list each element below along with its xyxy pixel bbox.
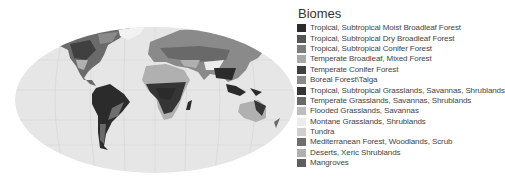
legend-label: Deserts, Xeric Shrublands [310,148,400,158]
legend-label: Flooded Grasslands, Savannas [310,106,419,116]
biome-legend: Biomes Tropical, Subtropical Moist Broad… [297,6,494,168]
legend-item: Tropical, Subtropical Moist Broadleaf Fo… [297,23,494,33]
legend-swatch [297,35,306,43]
legend-swatch [297,159,306,167]
legend-item: Mediterranean Forest, Woodlands, Scrub [297,137,494,147]
legend-swatch [297,87,306,95]
world-biome-map [0,0,300,180]
legend-item: Tropical, Subtropical Conifer Forest [297,44,494,54]
legend-swatch [297,128,306,136]
legend-swatch [297,118,306,126]
legend-swatch [297,149,306,157]
legend-item: Temperate Conifer Forest [297,65,494,75]
legend-item: Tropical, Subtropical Grasslands, Savann… [297,85,494,95]
legend-swatch [297,55,306,63]
legend-label: Boreal Forest\Taiga [310,75,377,85]
legend-swatch [297,24,306,32]
legend-title: Biomes [298,6,494,21]
legend-item: Deserts, Xeric Shrublands [297,148,494,158]
legend-item: Flooded Grasslands, Savannas [297,106,494,116]
legend-item: Temperate Broadleaf, Mixed Forest [297,54,494,64]
legend-label: Temperate Broadleaf, Mixed Forest [310,54,432,64]
legend-label: Montane Grasslands, Shrublands [310,117,426,127]
legend-item: Tropical, Subtropical Dry Broadleaf Fore… [297,33,494,43]
legend-label: Tropical, Subtropical Dry Broadleaf Fore… [310,34,454,44]
legend-item: Tundra [297,127,494,137]
legend-swatch [297,76,306,84]
legend-label: Tropical, Subtropical Conifer Forest [310,44,432,54]
legend-swatch [297,66,306,74]
legend-item: Temperate Grasslands, Savannas, Shrublan… [297,96,494,106]
legend-item: Boreal Forest\Taiga [297,75,494,85]
legend-swatch [297,107,306,115]
legend-label: Mediterranean Forest, Woodlands, Scrub [310,137,452,147]
legend-label: Tropical, Subtropical Moist Broadleaf Fo… [310,23,461,33]
legend-swatch [297,138,306,146]
legend-label: Temperate Grasslands, Savannas, Shrublan… [310,96,471,106]
legend-swatch [297,45,306,53]
legend-swatch [297,97,306,105]
legend-label: Tundra [310,127,334,137]
legend-label: Mangroves [310,158,349,168]
legend-label: Tropical, Subtropical Grasslands, Savann… [310,86,505,96]
legend-label: Temperate Conifer Forest [310,65,398,75]
legend-item: Mangroves [297,158,494,168]
legend-item: Montane Grasslands, Shrublands [297,117,494,127]
